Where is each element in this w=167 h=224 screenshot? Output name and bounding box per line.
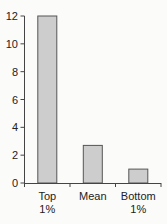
y-tick-label: 2 [0,149,18,161]
y-tick-label: 0 [0,177,18,189]
bar-chart: 024681012 Top1%MeanBottom1% [0,0,167,224]
x-category-label: Top1% [24,190,70,216]
bar [38,16,57,183]
y-tick-label: 4 [0,121,18,133]
y-tick-label: 12 [0,10,18,22]
y-tick-label: 8 [0,66,18,78]
y-tick-label: 10 [0,38,18,50]
bar [129,169,148,183]
x-category-label: Bottom1% [115,190,161,216]
bar [83,145,102,183]
x-category-label: Mean [70,190,116,203]
y-tick-label: 6 [0,94,18,106]
